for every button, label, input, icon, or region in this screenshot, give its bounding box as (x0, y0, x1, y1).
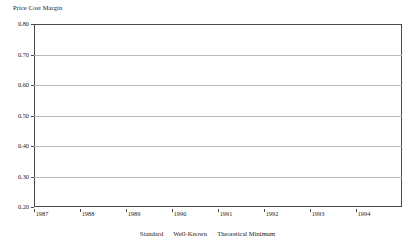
x-tick-label-1989: 1989 (128, 211, 141, 217)
x-axis-tick-labels: 19871988198919901991199219931994 (34, 209, 402, 223)
gridline-0.50 (34, 116, 402, 117)
y-tick-label-0.30: 0.30 (18, 173, 29, 179)
x-tick-label-1993: 1993 (312, 211, 325, 217)
gridline-0.60 (34, 85, 402, 86)
chart-axis-title: Price Cost Margin (13, 4, 62, 11)
y-tick-label-0.50: 0.50 (18, 112, 29, 118)
y-tick-0.40 (31, 146, 34, 147)
legend-item-well-known: Well-Known (173, 231, 207, 238)
y-tick-label-0.80: 0.80 (18, 21, 29, 27)
y-tick-0.20 (31, 207, 34, 208)
y-axis-tick-labels: 0.200.300.400.500.600.700.80 (0, 24, 32, 207)
gridline-0.40 (34, 146, 402, 147)
y-tick-label-0.20: 0.20 (18, 204, 29, 210)
x-tick-label-1992: 1992 (266, 211, 279, 217)
price-cost-margin-chart: Price Cost Margin 0.200.300.400.500.600.… (0, 0, 415, 249)
y-tick-label-0.40: 0.40 (18, 143, 29, 149)
y-tick-0.70 (31, 55, 34, 56)
x-tick-label-1987: 1987 (36, 211, 49, 217)
y-tick-0.60 (31, 85, 34, 86)
gridline-0.70 (34, 55, 402, 56)
x-tick-label-1994: 1994 (358, 211, 371, 217)
y-tick-label-0.60: 0.60 (18, 82, 29, 88)
y-tick-0.80 (31, 24, 34, 25)
plot-area (34, 24, 402, 207)
chart-legend: StandardWell-KnownTheoretical Minimum (0, 231, 415, 238)
x-tick-label-1988: 1988 (82, 211, 95, 217)
x-tick-label-1990: 1990 (174, 211, 187, 217)
gridline-0.30 (34, 177, 402, 178)
y-tick-0.50 (31, 116, 34, 117)
legend-item-standard: Standard (140, 231, 163, 238)
y-tick-label-0.70: 0.70 (18, 51, 29, 57)
legend-item-theoretical-minimum: Theoretical Minimum (217, 231, 275, 238)
y-tick-0.30 (31, 177, 34, 178)
x-tick-label-1991: 1991 (220, 211, 233, 217)
